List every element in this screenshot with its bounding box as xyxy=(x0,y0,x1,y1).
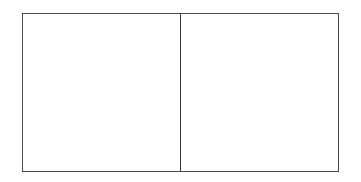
left-panel xyxy=(23,14,181,171)
right-panel xyxy=(181,14,338,171)
two-panel-diagram xyxy=(22,13,339,172)
